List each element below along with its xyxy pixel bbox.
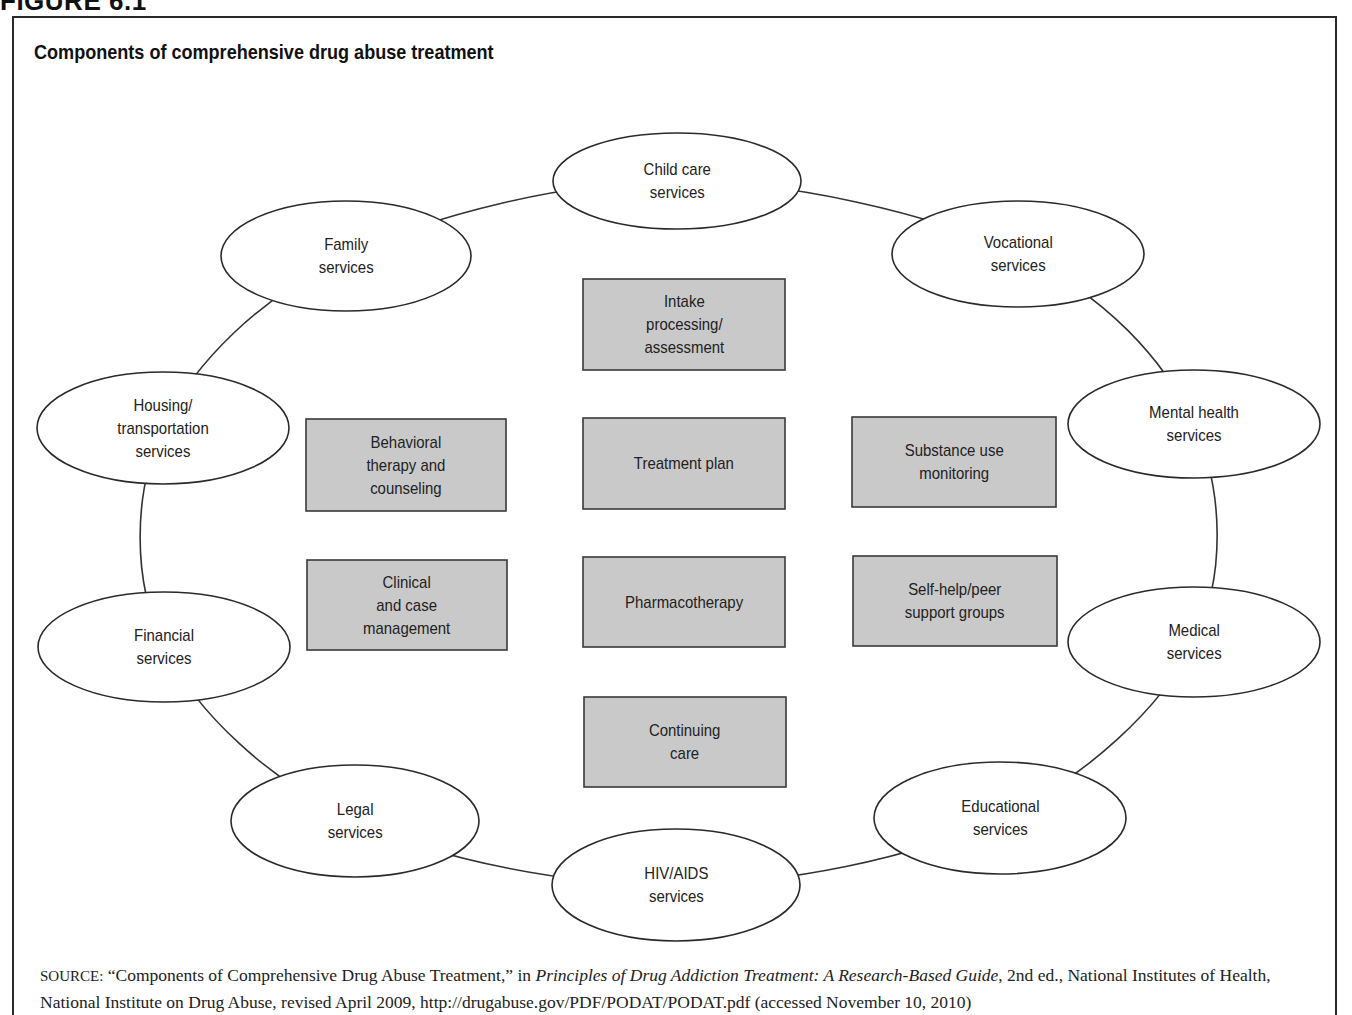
component-clinical-label: Clinical and case management — [307, 560, 507, 650]
service-educational-label: Educational services — [874, 762, 1126, 874]
service-family-label: Family services — [221, 201, 471, 311]
service-medical-label: Medical services — [1068, 587, 1320, 697]
component-treatment-plan-label: Treatment plan — [583, 418, 785, 509]
source-book-title: Principles of Drug Addiction Treatment: … — [535, 965, 998, 985]
component-behavioral-label: Behavioral therapy and counseling — [306, 419, 506, 511]
source-prefix: SOURCE: — [40, 968, 103, 984]
source-note: SOURCE: “Components of Comprehensive Dru… — [40, 962, 1320, 1015]
service-housing-label: Housing/ transportation services — [37, 372, 289, 484]
service-child-care-label: Child care services — [553, 133, 801, 229]
source-quote: “Components of Comprehensive Drug Abuse … — [108, 965, 536, 985]
service-hiv-aids-label: HIV/AIDS services — [552, 829, 800, 941]
service-mental-health-label: Mental health services — [1068, 370, 1320, 478]
service-legal-label: Legal services — [231, 765, 479, 877]
component-substance-monitoring-label: Substance use monitoring — [852, 417, 1056, 507]
component-self-help-label: Self-help/peer support groups — [853, 556, 1057, 646]
component-intake-label: Intake processing/ assessment — [583, 279, 785, 370]
component-pharmacotherapy-label: Pharmacotherapy — [583, 557, 785, 647]
service-financial-label: Financial services — [38, 592, 290, 702]
component-continuing-care-label: Continuing care — [584, 697, 786, 787]
service-vocational-label: Vocational services — [892, 201, 1144, 307]
